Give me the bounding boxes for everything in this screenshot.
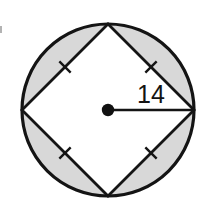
geometry-figure: 14 xyxy=(0,0,204,212)
circle-inscribed-square-diagram: 14 xyxy=(0,0,204,212)
radius-measurement-label: 14 xyxy=(137,80,165,108)
center-point-dot xyxy=(102,104,114,116)
